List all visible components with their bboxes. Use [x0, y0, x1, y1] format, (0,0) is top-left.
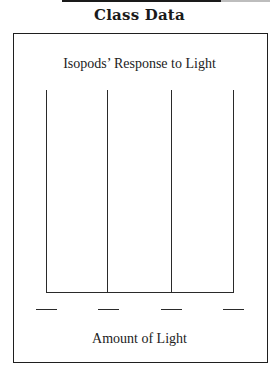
graph-gridline-4 — [233, 90, 234, 293]
graph-gridline-1 — [46, 90, 47, 293]
graph-frame — [13, 33, 268, 363]
graph-gridline-3 — [171, 90, 172, 293]
graph-gridline-2 — [107, 90, 108, 293]
category-blank-4[interactable] — [223, 309, 244, 310]
category-blank-2[interactable] — [98, 309, 119, 310]
header-rule — [62, 0, 221, 2]
graph-baseline — [46, 292, 234, 293]
header-rule-light — [221, 0, 270, 2]
chart-title: Isopods’ Response to Light — [0, 56, 279, 72]
x-axis-label: Amount of Light — [0, 331, 279, 347]
category-blank-3[interactable] — [161, 309, 182, 310]
page-title: Class Data — [0, 6, 279, 24]
category-blank-1[interactable] — [36, 309, 57, 310]
